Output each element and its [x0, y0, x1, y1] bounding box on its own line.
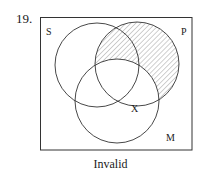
shaded-region-p-not-m [90, 15, 190, 115]
label-m: M [166, 132, 175, 143]
x-marker: X [131, 103, 139, 114]
caption-invalid: Invalid [0, 157, 206, 172]
label-p: P [181, 26, 187, 37]
label-s: S [46, 26, 52, 37]
venn-diagram: S P M X [0, 0, 206, 178]
